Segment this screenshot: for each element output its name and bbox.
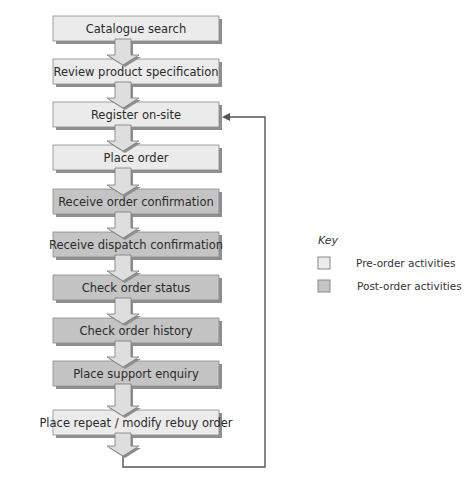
process-flow-diagram: Catalogue searchReview product specifica… (0, 0, 476, 484)
process-step: Register on-site (53, 102, 222, 130)
step-label: Place order (104, 151, 169, 165)
step-label: Check order status (82, 281, 191, 295)
step-label: Catalogue search (86, 22, 186, 36)
key-swatch-post-order (318, 280, 330, 292)
step-label: Review product specification (53, 65, 218, 79)
legend-key: Key Pre-order activities Post-order acti… (318, 234, 462, 292)
process-step: Receive order confirmation (53, 189, 222, 217)
step-label: Check order history (80, 324, 193, 338)
key-label-pre-order: Pre-order activities (356, 257, 455, 269)
process-step: Receive dispatch confirmation (49, 232, 223, 260)
process-step: Catalogue search (53, 16, 222, 44)
process-step: Review product specification (53, 59, 222, 87)
step-label: Place repeat / modify rebuy order (39, 416, 232, 430)
process-steps: Catalogue searchReview product specifica… (39, 16, 232, 458)
step-label: Receive dispatch confirmation (49, 238, 223, 252)
key-title: Key (318, 234, 339, 247)
step-label: Place support enquiry (73, 367, 199, 381)
process-step: Place order (53, 145, 222, 173)
process-step: Place support enquiry (53, 361, 222, 389)
key-label-post-order: Post-order activities (357, 280, 462, 292)
process-step: Check order history (53, 318, 222, 346)
step-label: Register on-site (91, 108, 181, 122)
feedback-arrowhead-icon (222, 113, 230, 121)
process-step: Place repeat / modify rebuy order (39, 410, 232, 438)
process-step: Check order status (53, 275, 222, 303)
step-label: Receive order confirmation (58, 195, 214, 209)
key-swatch-pre-order (318, 257, 330, 269)
